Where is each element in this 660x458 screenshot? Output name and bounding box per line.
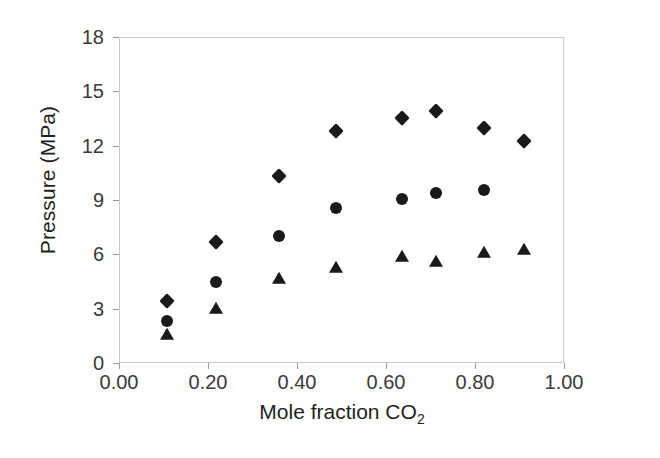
data-point-circle [478, 184, 490, 196]
data-point-triangle [209, 301, 223, 313]
x-tick-label: 0.80 [433, 372, 517, 392]
x-tick-label: 0.40 [255, 372, 339, 392]
x-tick-mark [564, 363, 565, 369]
data-point-triangle [429, 255, 443, 267]
y-tick-label: 9 [62, 190, 104, 210]
data-point-triangle [272, 272, 286, 284]
x-tick-mark [297, 363, 298, 369]
data-point-circle [430, 187, 442, 199]
y-tick-label: 15 [62, 81, 104, 101]
plot-frame [119, 37, 564, 363]
x-axis-title: Mole fraction CO2 [119, 400, 565, 424]
x-axis-title-subscript: 2 [417, 411, 425, 427]
y-tick-label: 3 [62, 299, 104, 319]
x-axis-title-base: Mole fraction CO [259, 400, 417, 423]
x-tick-label: 0.60 [344, 372, 428, 392]
x-tick-mark [119, 363, 120, 369]
data-point-triangle [477, 245, 491, 257]
y-tick-label: 18 [62, 27, 104, 47]
y-tick-label: 6 [62, 244, 104, 264]
y-tick-label: 12 [62, 136, 104, 156]
y-axis-title: Pressure (MPa) [36, 40, 60, 320]
data-point-circle [161, 315, 173, 327]
data-point-triangle [395, 250, 409, 262]
x-tick-label: 0.00 [77, 372, 161, 392]
scatter-plot-figure: Pressure (MPa) Mole fraction CO2 0369121… [0, 0, 660, 458]
data-point-circle [330, 202, 342, 214]
data-point-circle [210, 276, 222, 288]
x-tick-mark [386, 363, 387, 369]
y-tick-label: 0 [62, 353, 104, 373]
data-point-circle [273, 230, 285, 242]
x-tick-mark [208, 363, 209, 369]
x-tick-mark [475, 363, 476, 369]
data-point-circle [396, 193, 408, 205]
data-point-triangle [329, 261, 343, 273]
x-tick-label: 1.00 [522, 372, 606, 392]
data-point-triangle [517, 243, 531, 255]
x-tick-label: 0.20 [166, 372, 250, 392]
data-point-triangle [160, 328, 174, 340]
